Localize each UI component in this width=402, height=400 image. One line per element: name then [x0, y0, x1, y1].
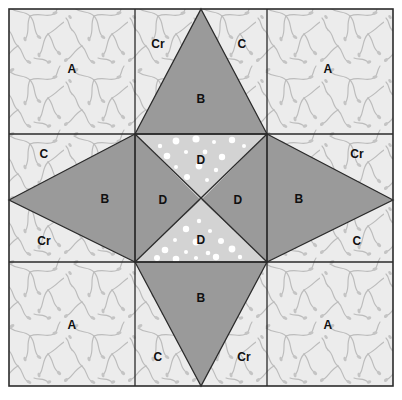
polka-dot [206, 251, 211, 256]
polka-dot [229, 246, 236, 253]
polka-dot [174, 165, 178, 169]
polka-dot [192, 135, 199, 142]
polka-dot [212, 140, 216, 144]
polka-dot [173, 138, 180, 145]
polka-dot [196, 163, 203, 170]
quilt-block-diagram: AAAACrCCCrCCrCrCBBBBDDDD [0, 0, 402, 400]
polka-dot [173, 256, 180, 263]
polka-dot [158, 144, 162, 148]
polka-dot [218, 238, 224, 244]
polka-dot [219, 154, 225, 160]
polka-dot [184, 174, 190, 180]
polka-dot [184, 250, 188, 254]
polka-dot [229, 137, 235, 143]
quilt-svg [0, 0, 402, 400]
polka-dot [173, 238, 177, 242]
polka-dot [208, 229, 212, 233]
polka-dot [197, 219, 201, 223]
polka-dot [205, 178, 209, 182]
polka-dot [238, 255, 242, 259]
polka-dot [203, 150, 208, 155]
polka-dot [214, 168, 218, 172]
polka-dot [184, 150, 188, 154]
polka-dot [164, 153, 171, 160]
polka-dot [154, 255, 160, 261]
polka-dot [183, 226, 189, 232]
polka-dot [194, 256, 198, 260]
polka-dot [242, 144, 246, 148]
polka-dot [213, 254, 219, 260]
polka-dot [162, 247, 169, 254]
polka-dot [193, 239, 200, 246]
